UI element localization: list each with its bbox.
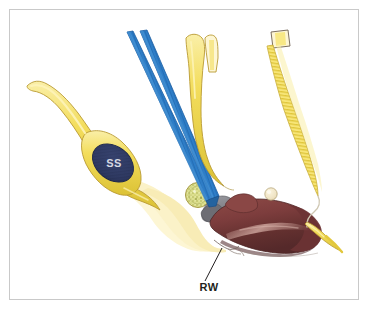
label-rw: RW — [199, 281, 218, 293]
ossicle-nodule — [265, 188, 277, 200]
label-ss: SS — [106, 157, 122, 169]
illustration-canvas: SS — [0, 0, 368, 309]
anatomical-figure: SS — [0, 0, 368, 309]
